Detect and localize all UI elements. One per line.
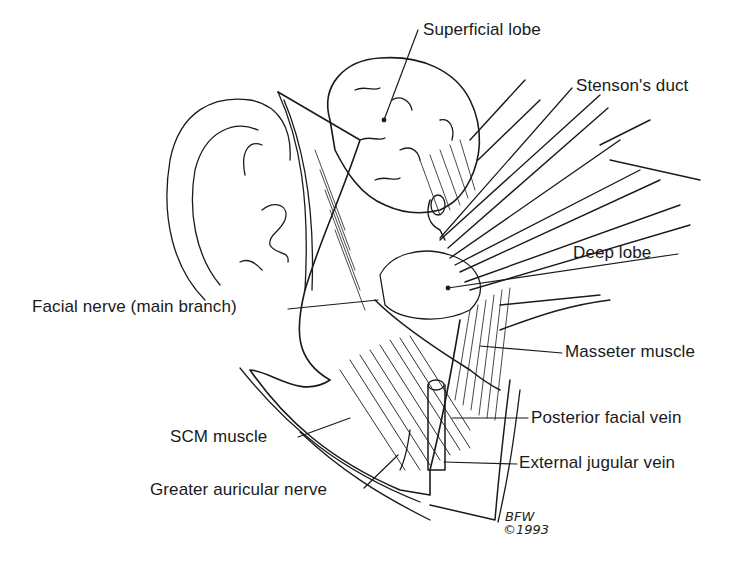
label-posterior-facial-vein: Posterior facial vein [531, 408, 681, 428]
label-external-jugular-vein: External jugular vein [519, 453, 675, 473]
anatomical-diagram: Superficial lobe Stenson's duct Deep lob… [0, 0, 751, 569]
artist-copyright-year: ©1993 [503, 523, 549, 536]
label-scm-muscle: SCM muscle [170, 427, 267, 447]
label-facial-nerve: Facial nerve (main branch) [32, 297, 237, 317]
label-masseter-muscle: Masseter muscle [565, 342, 695, 362]
facial-nerve-line [375, 300, 500, 390]
label-greater-auricular-nerve: Greater auricular nerve [150, 480, 327, 500]
label-superficial-lobe: Superficial lobe [423, 20, 541, 40]
label-stensons-duct: Stenson's duct [576, 76, 688, 96]
label-deep-lobe: Deep lobe [573, 243, 651, 263]
retractors [440, 80, 700, 330]
ear-drawing [167, 99, 290, 300]
